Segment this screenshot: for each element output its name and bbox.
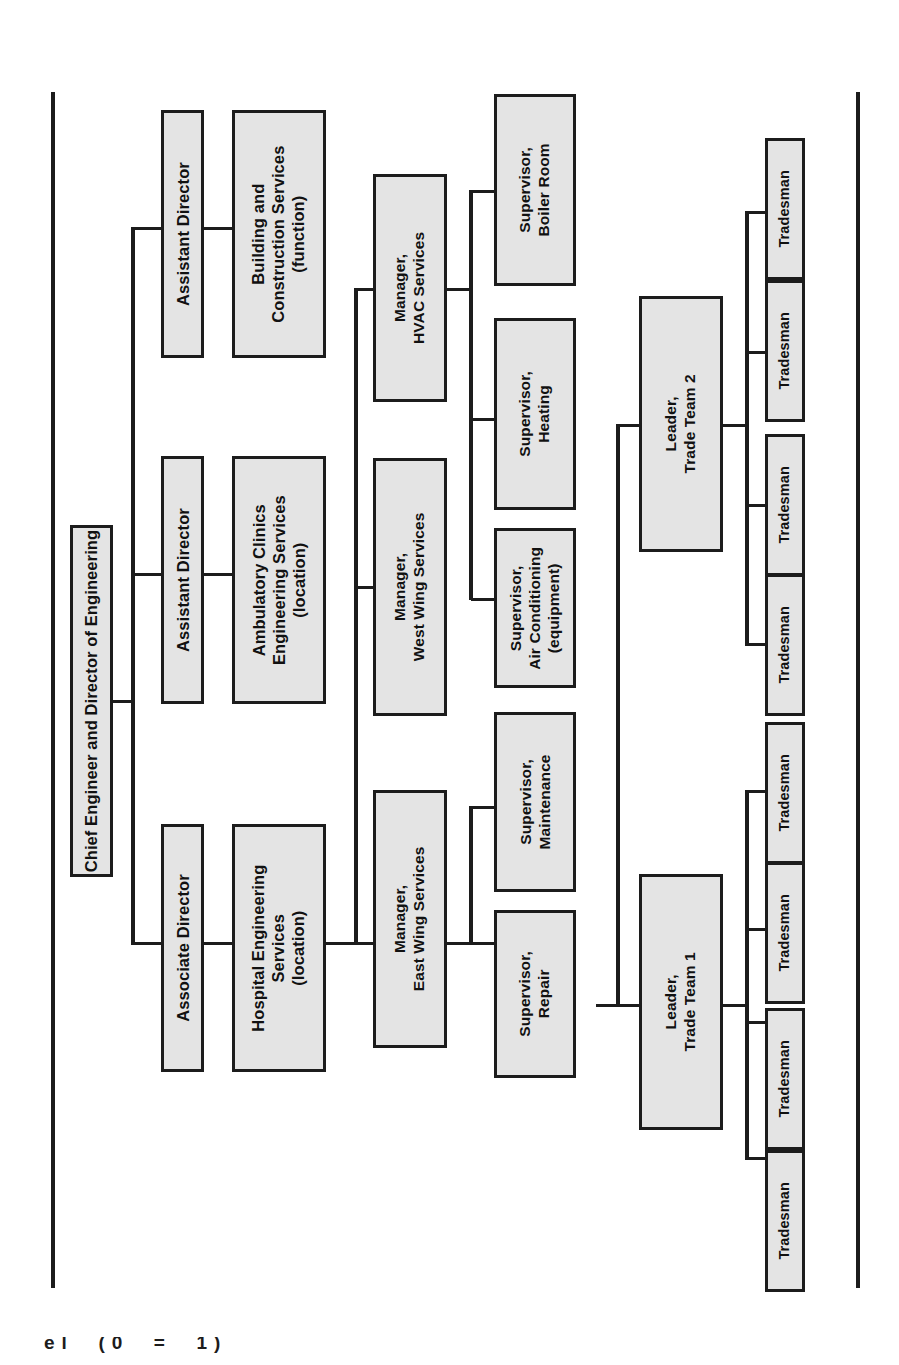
connector-to-director-1 xyxy=(133,227,162,230)
node-label: Associate Director xyxy=(172,874,192,1022)
node-associate-director[interactable]: Associate Director xyxy=(161,824,204,1072)
node-chief-engineer[interactable]: Chief Engineer and Director of Engineeri… xyxy=(70,525,113,877)
node-manager-east-wing-services[interactable]: Manager, East Wing Services xyxy=(373,790,447,1048)
connector-to-sup-ac xyxy=(471,598,495,601)
node-label: Manager, HVAC Services xyxy=(391,232,429,344)
node-manager-hvac-services[interactable]: Manager, HVAC Services xyxy=(373,174,447,402)
page-rule-right xyxy=(856,92,860,1288)
node-label: Supervisor, Air Conditioning (equipment) xyxy=(507,547,564,670)
connector-director-1-division xyxy=(203,227,233,230)
node-label: Manager, West Wing Services xyxy=(391,513,429,662)
node-leader-trade-team-1[interactable]: Leader, Trade Team 1 xyxy=(639,874,723,1130)
node-tradesman-team2-4[interactable]: Tradesman xyxy=(765,574,805,716)
connector-team2-spine xyxy=(745,211,749,646)
node-assistant-director-2[interactable]: Assistant Director xyxy=(161,456,204,704)
node-tradesman-team1-4[interactable]: Tradesman xyxy=(765,1150,805,1292)
connector-team1-spine xyxy=(745,790,749,1160)
node-label: Leader, Trade Team 2 xyxy=(662,374,700,473)
node-label: Ambulatory Clinics Engineering Services … xyxy=(249,495,309,665)
connector-to-sup-heating xyxy=(471,418,495,421)
connector-to-director-3 xyxy=(133,942,162,945)
node-label: Manager, East Wing Services xyxy=(391,847,429,992)
node-supervisor-repair[interactable]: Supervisor, Repair xyxy=(494,910,576,1078)
connector-hvac-sup-spine xyxy=(469,190,473,600)
page-rule-left xyxy=(51,92,55,1288)
connector-to-manager-hvac xyxy=(356,288,374,291)
node-supervisor-maintenance[interactable]: Supervisor, Maintenance xyxy=(494,712,576,892)
node-label: Hospital Engineering Services (location) xyxy=(249,864,309,1031)
connector-to-sup-repair xyxy=(471,942,495,945)
connector-director-2-division xyxy=(203,573,233,576)
node-label: Tradesman xyxy=(776,466,794,543)
connector-to-leader-team2 xyxy=(618,424,640,427)
node-tradesman-team1-2[interactable]: Tradesman xyxy=(765,862,805,1004)
node-label: Tradesman xyxy=(776,754,794,831)
node-tradesman-team2-2[interactable]: Tradesman xyxy=(765,280,805,422)
connector-to-leader-team1 xyxy=(618,1004,640,1007)
node-leader-trade-team-2[interactable]: Leader, Trade Team 2 xyxy=(639,296,723,552)
connector-to-sup-maintenance xyxy=(471,806,495,809)
connector-director-3-division xyxy=(203,942,233,945)
connector-directors-spine xyxy=(131,227,135,945)
node-label: Supervisor, Maintenance xyxy=(516,755,554,850)
connector-to-sup-boiler xyxy=(471,190,495,193)
node-tradesman-team2-1[interactable]: Tradesman xyxy=(765,138,805,280)
node-building-construction-services[interactable]: Building and Construction Services (func… xyxy=(232,110,326,358)
node-hospital-engineering-services[interactable]: Hospital Engineering Services (location) xyxy=(232,824,326,1072)
node-label: Supervisor, Heating xyxy=(516,371,554,457)
node-tradesman-team1-3[interactable]: Tradesman xyxy=(765,1008,805,1150)
node-label: Assistant Director xyxy=(172,508,192,652)
connector-managers-spine xyxy=(354,288,358,944)
node-label: Tradesman xyxy=(776,894,794,971)
connector-leaders-spine xyxy=(616,424,620,1007)
node-assistant-director-1[interactable]: Assistant Director xyxy=(161,110,204,358)
page-bottom-cutoff-text: el (0 = 1) xyxy=(44,1337,227,1365)
node-label: Tradesman xyxy=(776,1182,794,1259)
node-supervisor-air-conditioning[interactable]: Supervisor, Air Conditioning (equipment) xyxy=(494,528,576,688)
connector-to-director-2 xyxy=(133,573,162,576)
connector-to-manager-east xyxy=(356,942,374,945)
connector-east-sup-spine xyxy=(469,806,473,945)
node-supervisor-boiler-room[interactable]: Supervisor, Boiler Room xyxy=(494,94,576,286)
node-label: Tradesman xyxy=(776,170,794,247)
node-label: Leader, Trade Team 1 xyxy=(662,952,700,1051)
node-label: Supervisor, Repair xyxy=(516,951,554,1037)
node-label: Tradesman xyxy=(776,312,794,389)
node-label: Building and Construction Services (func… xyxy=(249,145,309,322)
node-label: Supervisor, Boiler Room xyxy=(516,143,554,236)
node-tradesman-team2-3[interactable]: Tradesman xyxy=(765,434,805,576)
node-manager-west-wing-services[interactable]: Manager, West Wing Services xyxy=(373,458,447,716)
node-label: Tradesman xyxy=(776,1040,794,1117)
connector-hospital-stub xyxy=(325,942,357,945)
node-tradesman-team1-1[interactable]: Tradesman xyxy=(765,722,805,864)
node-ambulatory-clinics-services[interactable]: Ambulatory Clinics Engineering Services … xyxy=(232,456,326,704)
node-label: Chief Engineer and Director of Engineeri… xyxy=(81,530,101,873)
node-label: Assistant Director xyxy=(172,162,192,306)
org-chart-page: Chief Engineer and Director of Engineeri… xyxy=(0,0,899,1365)
connector-to-manager-west xyxy=(356,586,374,589)
node-label: Tradesman xyxy=(776,606,794,683)
node-supervisor-heating[interactable]: Supervisor, Heating xyxy=(494,318,576,510)
